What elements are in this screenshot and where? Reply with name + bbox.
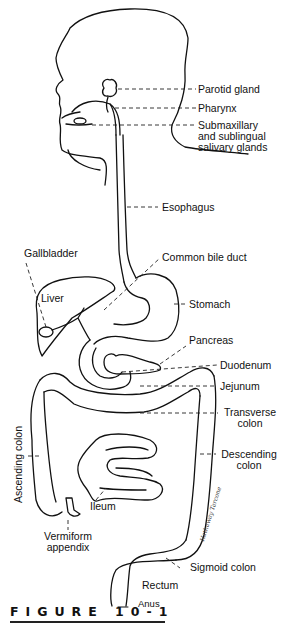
label-common-bile-duct: Common bile duct — [162, 252, 247, 263]
pancreas-leader — [160, 346, 186, 364]
label-stomach: Stomach — [189, 299, 230, 310]
figure-caption: FIGURE 10-1 — [10, 604, 174, 619]
label-gallbladder: Gallbladder — [24, 248, 78, 259]
label-submaxillary-3: salivary glands — [198, 142, 267, 153]
descending-colon-shape — [176, 376, 216, 560]
duodenum-shape — [79, 340, 131, 389]
label-pharynx: Pharynx — [198, 103, 237, 114]
label-transverse-2: colon — [220, 418, 280, 429]
esophagus-shape — [116, 135, 124, 282]
label-ileum: Ileum — [90, 501, 116, 512]
label-pancreas: Pancreas — [189, 335, 233, 346]
label-esophagus: Esophagus — [162, 202, 215, 213]
liver-shape — [36, 277, 115, 356]
label-jejunum: Jejunum — [220, 381, 260, 392]
parotid-gland-shape — [103, 79, 117, 96]
label-ascending-colon: Ascending colon — [12, 426, 24, 503]
head-outline — [56, 9, 248, 185]
label-parotid-gland: Parotid gland — [198, 84, 260, 95]
transverse-colon-shape — [40, 368, 214, 395]
label-descending-2: colon — [218, 460, 280, 471]
label-sigmoid-colon: Sigmoid colon — [190, 562, 256, 573]
label-liver: Liver — [41, 293, 64, 304]
label-duodenum: Duodenum — [220, 360, 271, 371]
appendix-shape — [66, 498, 80, 516]
stomach-shape — [94, 274, 179, 344]
label-vermiform-2: appendix — [36, 542, 100, 553]
ileum-leader — [96, 488, 106, 500]
ascending-colon-shape — [31, 380, 62, 516]
caption-underline — [10, 621, 165, 623]
gallbladder-shape — [39, 327, 53, 337]
label-rectum: Rectum — [142, 580, 178, 591]
